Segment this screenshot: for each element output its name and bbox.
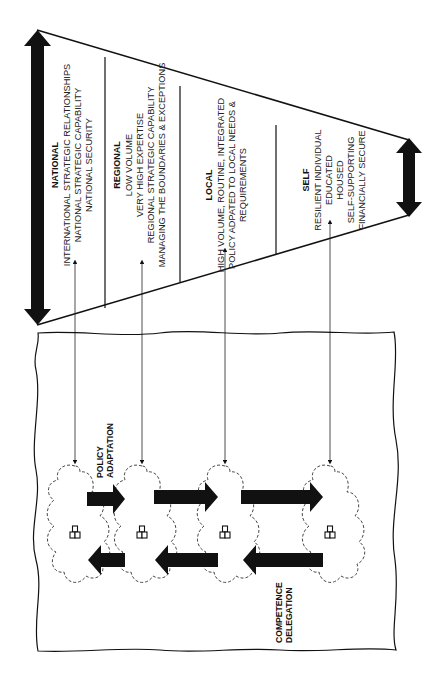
section-title: NATIONAL [50,142,60,188]
svg-text:HIGH VOLUME, ROUTINE, INTEGRAT: HIGH VOLUME, ROUTINE, INTEGRATED [216,97,226,272]
arrow-left-icon [155,545,218,575]
svg-text:NATIONAL STRATEGIC CAPABILITY: NATIONAL STRATEGIC CAPABILITY [73,88,83,242]
label-competence-delegation: COMPETENCE DELEGATION [274,582,294,643]
svg-text:SELF-SUPPORTING: SELF-SUPPORTING [346,137,356,224]
org-chart-icon [137,526,147,538]
org-chart-icon [325,526,335,538]
svg-text:POLICY ADPATED TO LOCAL NEEDS: POLICY ADPATED TO LOCAL NEEDS & [227,101,237,269]
policy-adaptation-arrows [87,482,323,514]
section-title: REGIONAL [112,141,122,189]
tiered-governance-diagram: NATIONAL INTERNATIONAL STRATEGIC RELATIO… [0,0,438,673]
svg-text:HOUSED: HOUSED [335,160,345,200]
svg-text:COMPETENCE: COMPETENCE [274,582,284,643]
svg-text:RESILIENT INDIVIDUAL: RESILIENT INDIVIDUAL [313,129,323,230]
svg-text:ADAPTATION: ADAPTATION [105,423,115,478]
section-national: NATIONAL INTERNATIONAL STRATEGIC RELATIO… [50,64,94,266]
arrow-right-icon [241,482,323,512]
svg-text:NATIONAL SECURITY: NATIONAL SECURITY [84,118,94,212]
svg-text:REGIONAL STRATEGIC CAPABILITY: REGIONAL STRATEGIC CAPABILITY [146,87,156,244]
svg-text:DELEGATION: DELEGATION [284,587,294,643]
org-chart-icon [70,526,80,538]
svg-text:VERY HIGH EXPERTISE: VERY HIGH EXPERTISE [135,113,145,217]
org-chart-icon [220,526,230,538]
large-scope-double-arrow [24,30,51,325]
svg-text:MANAGING THE BOUNDARIES & EXCE: MANAGING THE BOUNDARIES & EXCEPTIONS [157,63,167,268]
svg-text:INTERNATIONAL STRATEGIC RELATI: INTERNATIONAL STRATEGIC RELATIONSHIPS [62,64,72,266]
svg-text:LOW VOLUME: LOW VOLUME [124,134,134,196]
label-policy-adaptation: POLICY ADAPTATION [95,423,115,478]
section-title: SELF [301,168,311,192]
svg-text:FINANCIALLY SECURE: FINANCIALLY SECURE [357,130,367,229]
section-title: LOCAL [204,169,214,200]
svg-text:POLICY: POLICY [95,446,105,478]
section-regional: REGIONAL LOW VOLUME VERY HIGH EXPERTISE … [112,63,167,268]
section-local: LOCAL HIGH VOLUME, ROUTINE, INTEGRATED P… [204,97,248,272]
svg-text:EDUCATED: EDUCATED [324,155,334,205]
context-box [33,331,398,651]
section-self: SELF RESILIENT INDIVIDUAL EDUCATED HOUSE… [301,129,367,230]
small-scope-double-arrow [396,138,422,217]
arrow-right-icon [154,482,218,512]
svg-text:REQUIREMENTS: REQUIREMENTS [238,148,248,222]
